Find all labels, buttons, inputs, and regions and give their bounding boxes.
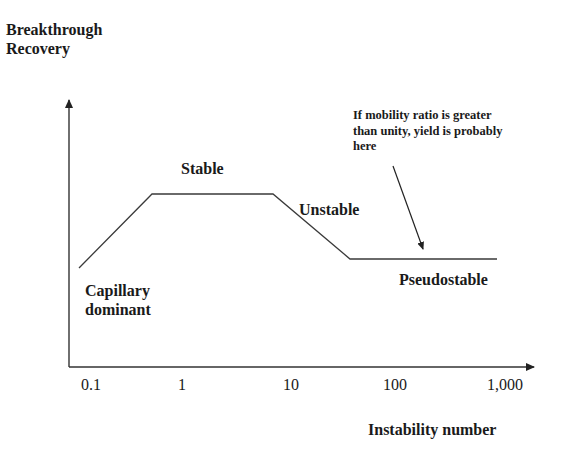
region-label-capillary-dominant: Capillary dominant <box>85 281 151 319</box>
x-tick-label: 0.1 <box>81 375 101 394</box>
capillary-line-2: dominant <box>85 300 151 319</box>
annotation-line-3: here <box>353 139 502 155</box>
region-label-stable: Stable <box>181 159 224 178</box>
mobility-ratio-annotation: If mobility ratio is greater than unity,… <box>353 108 502 155</box>
x-axis-title: Instability number <box>368 420 496 439</box>
region-label-unstable: Unstable <box>299 200 359 219</box>
x-tick-label: 10 <box>283 375 299 394</box>
recovery-curve <box>79 194 497 268</box>
region-label-pseudostable: Pseudostable <box>399 270 488 289</box>
annotation-arrow <box>393 166 423 249</box>
capillary-line-1: Capillary <box>85 281 151 300</box>
x-tick-label: 1,000 <box>487 375 523 394</box>
x-tick-label: 100 <box>383 375 407 394</box>
annotation-line-1: If mobility ratio is greater <box>353 108 502 124</box>
x-tick-label: 1 <box>178 375 186 394</box>
annotation-line-2: than unity, yield is probably <box>353 124 502 140</box>
